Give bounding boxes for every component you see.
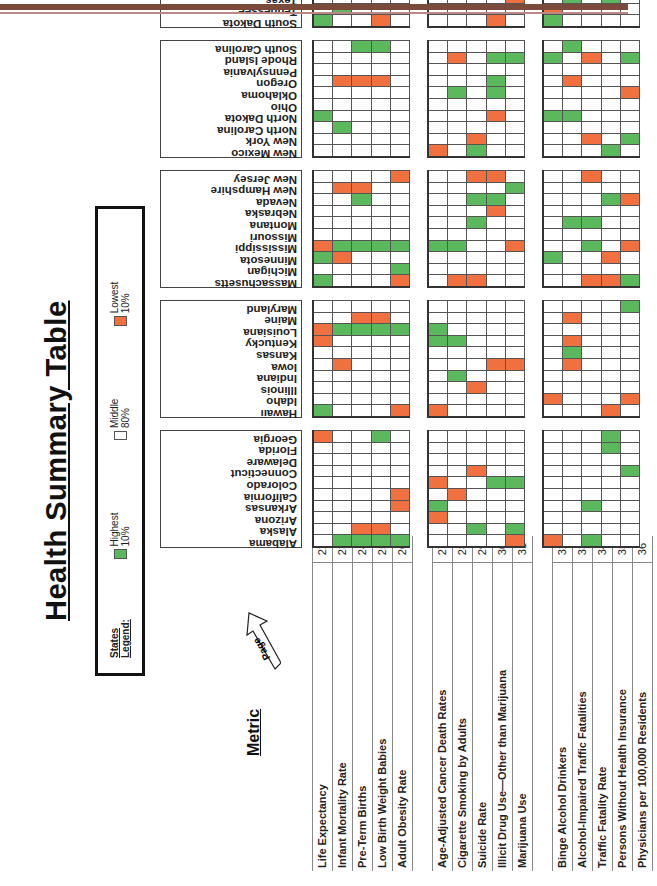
- state-label: Arizona: [255, 515, 297, 527]
- rating-cell: [333, 240, 352, 252]
- rating-cell: [582, 193, 601, 205]
- rating-cell: [429, 465, 448, 477]
- rating-cell: [333, 110, 352, 122]
- rating-cell: [582, 465, 601, 477]
- rating-cell: [429, 300, 448, 312]
- rating-cell: [372, 52, 391, 64]
- rating-cell: [582, 228, 601, 240]
- rating-cell: [391, 63, 410, 75]
- rating-cell: [467, 274, 486, 286]
- rating-cell: [467, 453, 486, 465]
- rating-cell: [582, 274, 601, 286]
- rating-cell: [621, 193, 640, 205]
- rating-cell: [448, 335, 467, 347]
- rating-cell: [372, 323, 391, 335]
- rating-cell: [621, 442, 640, 454]
- metric-row: Low Birth Weight Babies25: [373, 536, 393, 871]
- metric-label: Suicide Rate: [473, 563, 492, 871]
- rating-cell: [487, 511, 506, 523]
- rating-cell: [314, 98, 333, 110]
- rating-cell: [621, 216, 640, 228]
- state-label: Nevada: [256, 197, 297, 209]
- state-label: Oklahoma: [241, 90, 297, 102]
- rating-cell: [448, 370, 467, 382]
- rating-cell: [544, 476, 563, 488]
- rating-cell: [602, 523, 621, 535]
- rating-cell: [621, 251, 640, 263]
- rating-cell: [621, 263, 640, 275]
- rating-cell: [467, 75, 486, 87]
- rating-cell: [352, 346, 371, 358]
- green-swatch-icon: [114, 549, 127, 558]
- rating-cell: [372, 370, 391, 382]
- rating-cell: [448, 323, 467, 335]
- rating-cell: [582, 430, 601, 442]
- rating-cell: [429, 0, 448, 3]
- rating-cell: [602, 110, 621, 122]
- rating-cell: [448, 0, 467, 3]
- rating-cell: [544, 442, 563, 454]
- rating-cell: [602, 393, 621, 405]
- rating-cell: [506, 358, 525, 370]
- rating-cell: [467, 263, 486, 275]
- rating-cell: [544, 381, 563, 393]
- rating-cell: [448, 40, 467, 52]
- rating-cell: [333, 500, 352, 512]
- rating-cell: [582, 170, 601, 182]
- rating-cell: [544, 346, 563, 358]
- rating-cell: [333, 465, 352, 477]
- rating-cell: [487, 263, 506, 275]
- rating-cell: [563, 86, 582, 98]
- metric-label: Marijuana Use: [513, 563, 532, 871]
- rating-cell: [314, 312, 333, 324]
- rating-cell: [448, 404, 467, 416]
- rating-cell: [467, 205, 486, 217]
- rating-cell: [352, 251, 371, 263]
- rating-cell: [333, 193, 352, 205]
- rating-cell: [391, 75, 410, 87]
- rating-cell: [621, 63, 640, 75]
- rating-cell: [352, 534, 371, 546]
- rating-cell: [582, 133, 601, 145]
- metric-label: Alcohol-Impaired Traffic Fatalities: [573, 563, 592, 871]
- rating-cell: [448, 240, 467, 252]
- rating-cell: [391, 240, 410, 252]
- rating-cell: [429, 404, 448, 416]
- rating-cell: [544, 263, 563, 275]
- rating-cell: [314, 63, 333, 75]
- rating-cell: [352, 430, 371, 442]
- rating-cell: [429, 323, 448, 335]
- rating-cell: [544, 488, 563, 500]
- rating-cell: [544, 86, 563, 98]
- rating-cell: [582, 312, 601, 324]
- rating-cell: [391, 193, 410, 205]
- state-label: North Dakota: [225, 113, 297, 125]
- rating-cell: [448, 193, 467, 205]
- rating-cell: [314, 323, 333, 335]
- rating-cell: [467, 358, 486, 370]
- rating-cell: [487, 133, 506, 145]
- rating-cell: [352, 500, 371, 512]
- rating-cell: [429, 251, 448, 263]
- rating-cell: [467, 370, 486, 382]
- rating-cell: [506, 0, 525, 3]
- rating-cell: [487, 274, 506, 286]
- rating-cell: [333, 216, 352, 228]
- page-title: Health Summary Table: [40, 300, 73, 621]
- rating-cell: [506, 251, 525, 263]
- rating-cell: [506, 381, 525, 393]
- metric-header: Metric: [245, 709, 263, 756]
- rating-cell: [391, 205, 410, 217]
- rating-cell: [391, 52, 410, 64]
- rating-cell: [544, 228, 563, 240]
- rating-cell: [352, 393, 371, 405]
- rating-cell: [563, 228, 582, 240]
- rating-cell: [352, 312, 371, 324]
- rating-cell: [372, 534, 391, 546]
- rating-cell: [506, 511, 525, 523]
- rating-cell: [506, 52, 525, 64]
- rating-cell: [582, 358, 601, 370]
- rating-cell: [352, 404, 371, 416]
- rating-cell: [563, 500, 582, 512]
